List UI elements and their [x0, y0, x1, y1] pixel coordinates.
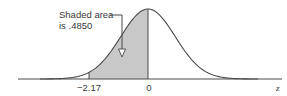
axis-label-z: z: [275, 83, 280, 93]
normal-curve-chart: Shaded area is .4850 −2.17 0 z: [0, 0, 287, 96]
tick-label-neg: −2.17: [77, 82, 101, 93]
annotation-line1: Shaded area: [59, 9, 114, 20]
annotation-line2: is .4850: [59, 20, 92, 31]
tick-label-zero: 0: [146, 82, 151, 93]
